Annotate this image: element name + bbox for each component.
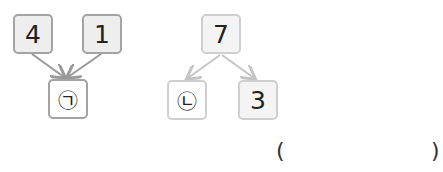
answer-blank[interactable] bbox=[290, 140, 430, 162]
box-top-left-4: 4 bbox=[13, 14, 53, 54]
box-top-right-1: 1 bbox=[82, 14, 122, 54]
arrow-4-to-a bbox=[32, 54, 64, 77]
answer-open-paren: ( bbox=[276, 138, 285, 163]
arrow-1-to-a bbox=[68, 54, 101, 77]
arrow-7-to-3 bbox=[222, 55, 254, 78]
box-bottom-3: 3 bbox=[238, 80, 278, 120]
box-unknown-b: ㉡ bbox=[167, 80, 207, 120]
box-unknown-a: ㉠ bbox=[48, 79, 88, 119]
answer-close-paren: ) bbox=[431, 138, 440, 163]
arrow-7-to-b bbox=[188, 55, 220, 78]
box-top-7: 7 bbox=[201, 14, 241, 54]
